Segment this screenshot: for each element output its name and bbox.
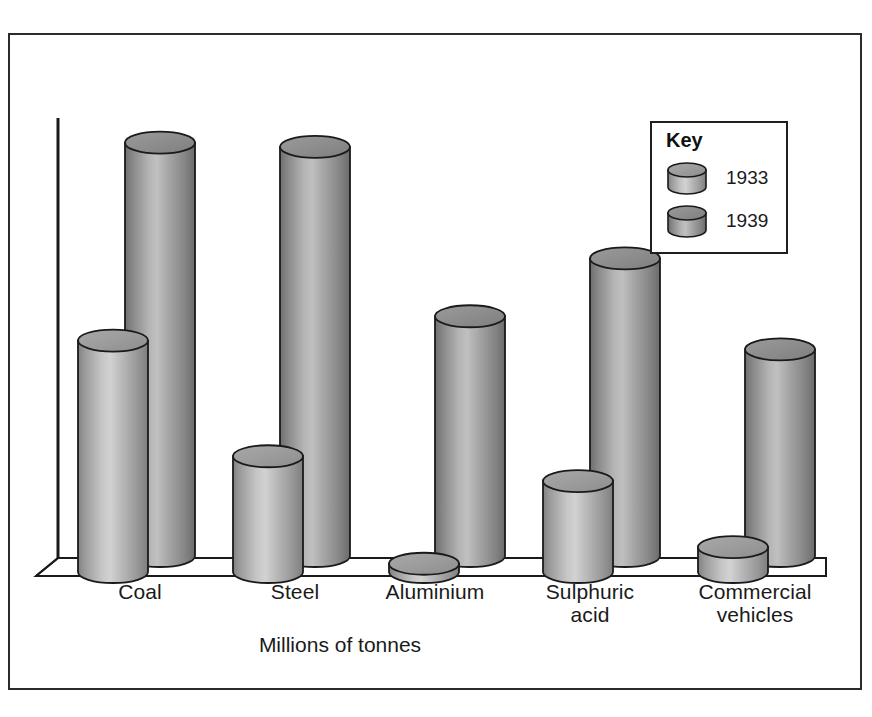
x-axis-caption: Millions of tonnes — [0, 633, 680, 657]
x-tick-label-commercial-vehicles: Commercial vehicles — [655, 581, 855, 626]
legend-title: Key — [666, 129, 703, 152]
chart-legend: Key 1933 1939 — [650, 121, 788, 254]
legend-label-1933: 1933 — [726, 167, 768, 189]
legend-item-1939: 1939 — [664, 203, 782, 241]
legend-item-1933: 1933 — [664, 160, 782, 198]
legend-swatch-1933-icon — [664, 160, 710, 196]
x-tick-label-aluminium: Aluminium — [345, 581, 525, 604]
x-tick-label-sulphuric-acid: Sulphuric acid — [505, 581, 675, 626]
legend-label-1939: 1939 — [726, 210, 768, 232]
chart-page: Coal Steel Aluminium Sulphuric acid Comm… — [0, 0, 872, 717]
x-tick-label-coal: Coal — [60, 581, 220, 604]
legend-swatch-1939-icon — [664, 203, 710, 239]
